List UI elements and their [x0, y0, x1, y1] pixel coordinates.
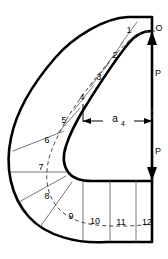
force-label-lower: P — [155, 146, 161, 156]
segment-label-7: 7 — [38, 162, 43, 172]
dimension-label-subscript: 4 — [121, 120, 125, 127]
origin-point-label: O — [155, 23, 162, 33]
segment-label-8: 8 — [44, 191, 49, 201]
outer-boundary-outline — [9, 17, 152, 242]
neutral-axis-centerline — [47, 31, 155, 226]
segment-label-12: 12 — [142, 217, 152, 227]
dimension-arrow-left — [83, 118, 91, 124]
segment-label-6: 6 — [44, 135, 49, 145]
dimension-label-a: a — [112, 113, 118, 124]
figure-canvas: 1 2 3 4 5 6 7 8 9 10 11 12 a — [0, 0, 168, 259]
segment-label-4: 4 — [79, 92, 84, 102]
force-arrow-lower-group: P — [147, 121, 161, 181]
segment-label-3: 3 — [96, 72, 101, 82]
hook-cross-section-figure: 1 2 3 4 5 6 7 8 9 10 11 12 a — [0, 0, 168, 259]
force-arrow-lower-head — [147, 167, 157, 181]
segment-label-9: 9 — [68, 211, 73, 221]
force-arrow-upper-group: P — [147, 31, 161, 106]
segment-label-11: 11 — [116, 217, 125, 227]
dimension-a4-group: a 4 — [83, 104, 152, 127]
segment-label-10: 10 — [90, 216, 100, 226]
force-label-upper: P — [155, 68, 161, 78]
segment-label-1: 1 — [126, 25, 131, 35]
segment-label-5: 5 — [61, 115, 66, 125]
segment-label-2: 2 — [112, 50, 117, 60]
